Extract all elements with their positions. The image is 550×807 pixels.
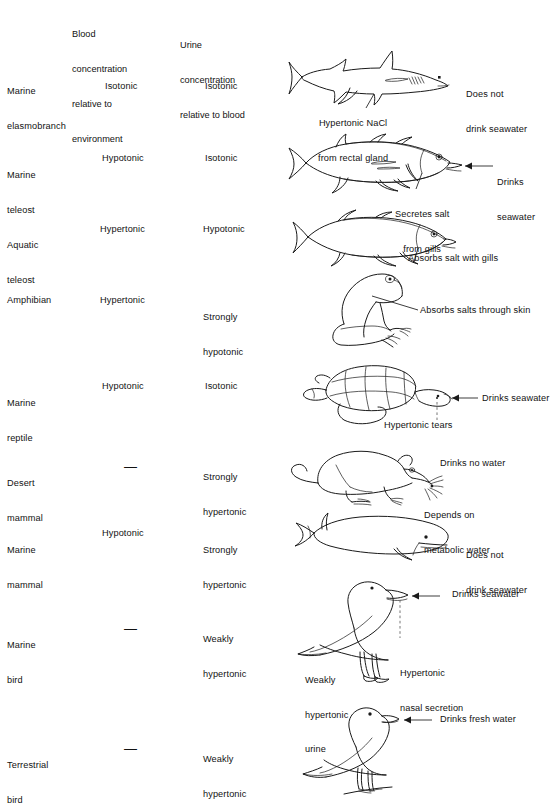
row-label-line-2: teleost xyxy=(7,205,36,217)
kangaroo-rat-icon xyxy=(288,443,443,505)
annotation-rat-nowater: Drinks no water xyxy=(440,458,505,470)
row-label-amphibian: Amphibian xyxy=(7,295,51,307)
row-label-line-2: bird xyxy=(7,795,48,807)
row-label-line-2: elasmobranch xyxy=(7,121,66,133)
cell-urine-line-1: Strongly xyxy=(203,312,243,324)
annotation-frog-skin: Absorbs salts through skin xyxy=(420,305,530,317)
row-label-line-2: mammal xyxy=(7,580,43,592)
annotation-line-2: seawater xyxy=(497,212,535,224)
annotation-turtle-tears: Hypertonic tears xyxy=(384,420,453,432)
cell-urine-marine-bird: Weakly hypertonic xyxy=(203,611,246,703)
column-header-urine-line-1: Urine xyxy=(180,40,245,52)
annotation-line-1: Drinks xyxy=(497,177,535,189)
row-label-line-2: bird xyxy=(7,675,36,687)
annotation-line-1: Does not xyxy=(466,89,527,101)
row-label-marine-reptile: Marine reptile xyxy=(7,375,36,467)
annotation-songbird-drink: Drinks fresh water xyxy=(440,714,516,726)
annotation-turtle-drink: Drinks seawater xyxy=(482,393,549,405)
row-label-marine-elasmobranch: Marine elasmobranch xyxy=(7,63,66,155)
column-header-blood-line-2: concentration xyxy=(72,64,127,76)
column-header-blood-line-1: Blood xyxy=(72,29,127,41)
row-label-line-1: Marine xyxy=(7,640,36,652)
row-label-terrestrial-bird: Terrestrial bird xyxy=(7,737,48,807)
sea-turtle-icon xyxy=(300,358,465,428)
row-label-line-1: Marine xyxy=(7,86,66,98)
column-header-blood-line-3: relative to xyxy=(72,99,127,111)
cell-blood-marine-elasmobranch: Isotonic xyxy=(105,81,137,93)
annotation-line-1: Hypertonic NaCl xyxy=(318,118,388,130)
cell-urine-marine-elasmobranch: Isotonic xyxy=(205,81,237,93)
row-label-line-1: Marine xyxy=(7,545,43,557)
cell-urine-marine-reptile: Isotonic xyxy=(205,381,237,393)
cell-urine-line-1: Strongly xyxy=(203,472,246,484)
row-label-line-2: reptile xyxy=(7,433,36,445)
cell-urine-amphibian: Strongly hypotonic xyxy=(203,289,243,381)
cell-blood-terrestrial-bird: — xyxy=(124,743,137,755)
row-label-line-1: Terrestrial xyxy=(7,760,48,772)
row-label-line-1: Desert xyxy=(7,478,43,490)
annotation-gull-drink: Drinks seawater xyxy=(452,589,519,601)
cell-urine-line-2: hypotonic xyxy=(203,347,243,359)
column-header-urine-line-3: relative to blood xyxy=(180,110,245,122)
annotation-line-1: Hypertonic xyxy=(400,668,463,680)
cell-urine-line-2: hypertonic xyxy=(203,669,246,681)
whale-icon xyxy=(288,505,453,563)
annotation-teleost-drink: Drinks seawater xyxy=(497,154,535,246)
cell-urine-line-2: hypertonic xyxy=(203,789,246,801)
cell-urine-marine-mammal: Strongly hypertonic xyxy=(203,522,246,614)
cell-blood-amphibian: Hypertonic xyxy=(100,295,145,307)
cell-urine-line-2: hypertonic xyxy=(203,580,246,592)
row-label-line-2: teleost xyxy=(7,275,38,287)
cell-blood-marine-teleost: Hypotonic xyxy=(102,153,144,165)
cell-blood-marine-reptile: Hypotonic xyxy=(102,381,144,393)
cell-urine-line-1: Weakly xyxy=(203,754,246,766)
annotation-line-2: drink seawater xyxy=(466,124,527,136)
row-label-marine-mammal: Marine mammal xyxy=(7,522,43,614)
cell-urine-marine-teleost: Isotonic xyxy=(205,153,237,165)
cell-blood-marine-mammal: Hypotonic xyxy=(102,528,144,540)
annotation-shark-drink: Does not drink seawater xyxy=(466,66,527,158)
row-label-line-1: Marine xyxy=(7,398,36,410)
cell-blood-aquatic-teleost: Hypertonic xyxy=(100,224,145,236)
row-label-line-1: Aquatic xyxy=(7,240,38,252)
row-label-marine-bird: Marine bird xyxy=(7,617,36,709)
cell-urine-line-1: Weakly xyxy=(203,634,246,646)
annotation-line-1: Does not xyxy=(466,550,527,562)
cell-blood-desert-mammal: — xyxy=(124,461,137,473)
cell-urine-terrestrial-bird: Weakly hypertonic xyxy=(203,731,246,807)
column-header-blood-line-4: environment xyxy=(72,134,127,146)
annotation-line-1: Weakly xyxy=(305,675,348,687)
songbird-icon xyxy=(300,698,490,794)
cell-urine-line-1: Strongly xyxy=(203,545,246,557)
cell-urine-aquatic-teleost: Hypotonic xyxy=(203,224,245,236)
annotation-aquatic-absorb: Absorbs salt with gills xyxy=(408,253,498,265)
row-label-line-1: Marine xyxy=(7,170,36,182)
cell-blood-marine-bird: — xyxy=(124,623,137,635)
cell-urine-line-2: hypertonic xyxy=(203,507,246,519)
